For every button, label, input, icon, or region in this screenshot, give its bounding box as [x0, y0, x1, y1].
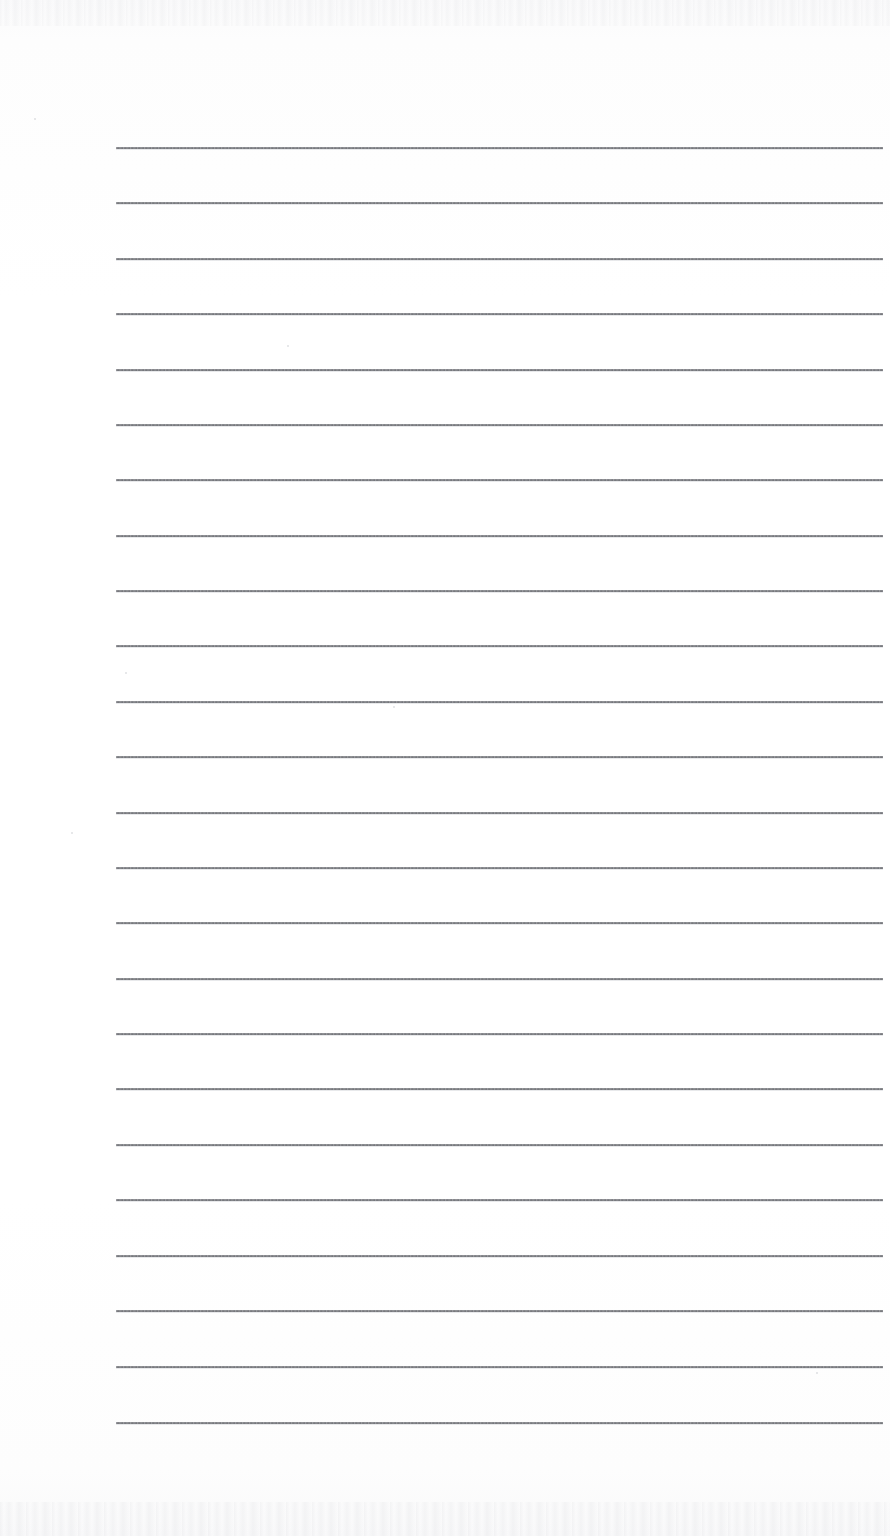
ruled-line — [116, 978, 883, 980]
ruled-line — [116, 701, 883, 703]
ruled-line — [116, 812, 883, 814]
scanned-page — [0, 0, 890, 1536]
ruled-line — [116, 922, 883, 924]
ruled-line — [116, 1088, 883, 1090]
ruled-line — [116, 1366, 883, 1368]
ruled-line — [116, 590, 883, 592]
ruled-line — [116, 202, 883, 204]
ruled-line — [116, 1199, 883, 1201]
ruled-line — [116, 645, 883, 647]
ruled-line — [116, 1310, 883, 1312]
ruled-line — [116, 1144, 883, 1146]
ruled-line — [116, 1033, 883, 1035]
ruled-line — [116, 1255, 883, 1257]
ruled-line — [116, 147, 883, 149]
ruled-line — [116, 1422, 883, 1424]
paper-surface — [0, 0, 890, 1536]
ruled-line — [116, 479, 883, 481]
ruled-line — [116, 535, 883, 537]
ruled-line — [116, 867, 883, 869]
ruled-line — [116, 756, 883, 758]
ruled-line — [116, 369, 883, 371]
ruled-line — [116, 313, 883, 315]
ruled-line — [116, 258, 883, 260]
ruled-line — [116, 424, 883, 426]
